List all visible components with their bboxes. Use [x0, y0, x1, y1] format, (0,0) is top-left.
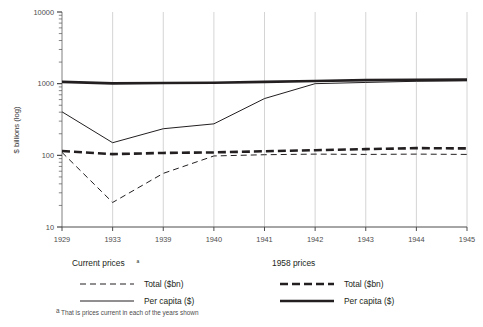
chart-figure: 10000100010010 1929193319391940194119421…: [0, 0, 483, 327]
x-tick-label-1940: 1940: [206, 235, 222, 244]
x-tick-label-1941: 1941: [256, 235, 272, 244]
x-tick-label-1942: 1942: [307, 235, 323, 244]
x-tick-label-1944: 1944: [408, 235, 424, 244]
x-tick-label-1945: 1945: [459, 235, 475, 244]
legend-current-prices-title-superscript: a: [136, 258, 139, 264]
x-tick-label-1929: 1929: [54, 235, 70, 244]
chart-background: [0, 0, 483, 327]
y-tick-label-1000: 1000: [38, 79, 54, 88]
x-tick-label-1933: 1933: [104, 235, 120, 244]
legend-current-prices-label-1: Per capita ($): [144, 296, 194, 306]
x-tick-label-1939: 1939: [155, 235, 171, 244]
legend-current-prices-title: Current prices: [72, 258, 125, 268]
legend-1958-prices-title: 1958 prices: [272, 258, 315, 268]
footnote: a That is prices current in each of the …: [56, 307, 199, 317]
legend-current-prices-label-0: Total ($bn): [144, 279, 184, 289]
line-chart: 10000100010010 1929193319391940194119421…: [0, 0, 483, 327]
y-tick-label-100: 100: [42, 151, 54, 160]
x-tick-label-1943: 1943: [358, 235, 374, 244]
x-tick-labels: 192919331939194019411942194319441945: [54, 235, 475, 244]
legend-1958-prices-label-0: Total ($bn): [344, 279, 384, 289]
y-tick-label-10000: 10000: [33, 8, 54, 17]
y-tick-label-10: 10: [46, 223, 54, 232]
y-axis-title: $ billions (log): [12, 106, 21, 153]
footnote-text: That is prices current in each of the ye…: [61, 309, 199, 317]
footnote-marker: a: [56, 307, 60, 314]
legend-1958-prices-label-1: Per capita ($): [344, 296, 394, 306]
